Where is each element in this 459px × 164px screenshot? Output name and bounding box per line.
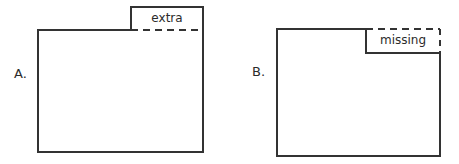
figure-a-body-fill (38, 30, 203, 152)
figure-b (277, 29, 440, 156)
figure-a-label: A. (14, 66, 27, 81)
figure-b-body-fill (277, 29, 440, 156)
diagram-canvas (0, 0, 459, 164)
figure-a (38, 7, 203, 152)
figure-b-label: B. (252, 64, 265, 79)
figure-b-missing-label: missing (366, 33, 440, 47)
figure-a-extra-label: extra (131, 11, 203, 25)
